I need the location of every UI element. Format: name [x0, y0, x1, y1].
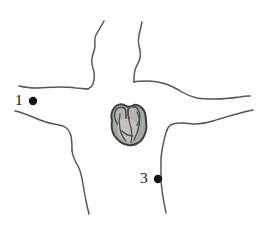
outline-right-arm-underside: [167, 110, 253, 130]
figure-canvas: [0, 0, 271, 230]
marker-label-point-3: 3: [140, 170, 148, 186]
outline-right-leg: [161, 130, 167, 213]
outline-left-arm-underside: [15, 111, 72, 151]
marker-label-point-1: 1: [15, 92, 23, 108]
outline-left-shoulder: [19, 86, 88, 89]
marker-dot-point-3[interactable]: [154, 175, 162, 183]
outline-right-shoulder: [134, 81, 250, 99]
outline-left-neck: [88, 21, 104, 89]
marker-dot-point-1[interactable]: [29, 97, 37, 105]
heart-illustration: [111, 104, 146, 145]
body-outline-figure: 1 3: [0, 0, 271, 230]
outline-left-leg: [72, 151, 89, 214]
outline-right-neck: [134, 22, 142, 82]
